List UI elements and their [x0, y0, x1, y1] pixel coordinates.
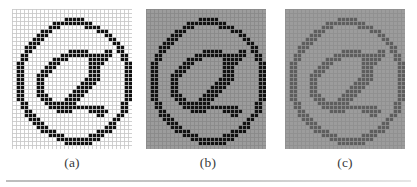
panel-row	[0, 9, 417, 155]
footer-divider	[6, 180, 411, 182]
panel-a-bitmap	[12, 9, 132, 149]
caption-b: (b)	[178, 155, 238, 171]
panel-b	[146, 9, 266, 149]
caption-row: (a) (b) (c)	[0, 155, 417, 177]
panel-b-bitmap	[146, 9, 266, 149]
figure-at-sign-contrast: (a) (b) (c)	[0, 0, 417, 187]
panel-c	[285, 9, 405, 149]
caption-c: (c)	[315, 155, 375, 171]
panel-a	[12, 9, 132, 149]
panel-c-bitmap	[285, 9, 405, 149]
caption-a: (a)	[42, 155, 102, 171]
